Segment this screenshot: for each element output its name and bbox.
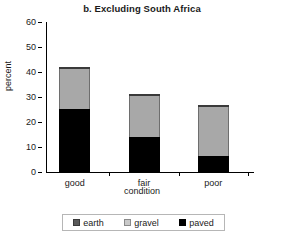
legend-item-paved[interactable]: paved [179, 218, 214, 228]
y-tick-mark [38, 97, 42, 98]
y-axis-line [46, 22, 47, 172]
segment-gravel-fair [129, 96, 160, 137]
chart-title: b. Excluding South Africa [0, 3, 284, 14]
legend-label-gravel: gravel [134, 218, 159, 228]
legend-item-earth[interactable]: earth [73, 218, 104, 228]
x-axis-line [46, 172, 254, 173]
segment-paved-fair [129, 137, 160, 172]
legend-label-paved: paved [189, 218, 214, 228]
legend-item-gravel[interactable]: gravel [124, 218, 159, 228]
y-tick-mark [38, 22, 42, 23]
segment-paved-poor [198, 156, 229, 172]
x-tick-mark [248, 172, 249, 176]
x-axis-title: condition [0, 186, 284, 196]
segment-gravel-good [59, 69, 90, 109]
segment-paved-good [59, 109, 90, 172]
gravel-swatch-icon [124, 219, 131, 226]
paved-swatch-icon [179, 219, 186, 226]
earth-swatch-icon [73, 219, 80, 226]
y-tick-label: 30 [26, 92, 36, 102]
y-tick-label: 20 [26, 117, 36, 127]
y-tick-label: 60 [26, 17, 36, 27]
y-tick-mark [38, 72, 42, 73]
y-tick-label: 50 [26, 42, 36, 52]
y-tick-mark [38, 172, 42, 173]
stacked-bar-chart: b. Excluding South Africa percent 010203… [0, 0, 284, 240]
y-tick-label: 40 [26, 67, 36, 77]
x-tick-mark [109, 172, 110, 176]
bar-fair[interactable] [129, 94, 160, 172]
bar-good[interactable] [59, 67, 90, 172]
y-axis-title: percent [3, 61, 13, 91]
y-tick-mark [38, 47, 42, 48]
legend-label-earth: earth [83, 218, 104, 228]
y-tick-label: 0 [31, 167, 36, 177]
x-tick-mark [179, 172, 180, 176]
y-tick-mark [38, 122, 42, 123]
chart-legend: earth gravel paved [62, 214, 225, 231]
y-tick-mark [38, 147, 42, 148]
segment-gravel-poor [198, 107, 229, 157]
plot-area: 0102030405060 goodfairpoor [46, 22, 254, 172]
bar-poor[interactable] [198, 105, 229, 173]
y-tick-label: 10 [26, 142, 36, 152]
